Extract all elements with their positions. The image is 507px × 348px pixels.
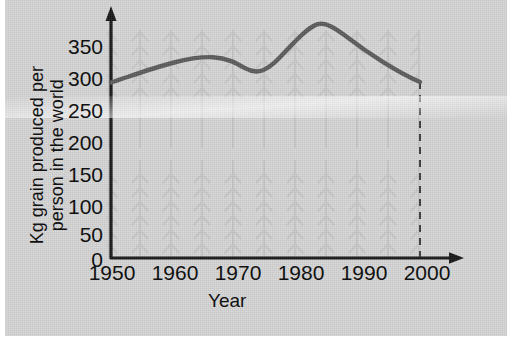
- x-tick-label: 1980: [278, 262, 325, 283]
- y-tick-label: 250: [68, 100, 103, 121]
- y-tick-label: 100: [68, 196, 103, 217]
- y-axis-title-line2: person in the world: [47, 30, 67, 280]
- x-tick-label: 1990: [341, 262, 388, 283]
- y-axis-title-line1: Kg grain produced per: [27, 30, 47, 280]
- figure: 350 300 250 200 150 100 50 0 1950 1960 1…: [0, 0, 507, 348]
- y-tick-label: 350: [68, 36, 103, 57]
- wheat-watermark: [105, 28, 425, 260]
- x-tick-label: 1970: [215, 262, 262, 283]
- y-tick-label: 150: [68, 164, 103, 185]
- y-tick-label: 200: [68, 132, 103, 153]
- y-tick-label: 50: [80, 224, 103, 245]
- x-tick-label: 2000: [404, 262, 451, 283]
- y-axis-title: Kg grain produced per person in the worl…: [27, 30, 67, 280]
- y-tick-label: 300: [68, 68, 103, 89]
- x-tick-label: 1950: [89, 262, 136, 283]
- x-tick-label: 1960: [152, 262, 199, 283]
- chart-panel: 350 300 250 200 150 100 50 0 1950 1960 1…: [5, 0, 507, 336]
- x-axis-title: Year: [208, 290, 246, 312]
